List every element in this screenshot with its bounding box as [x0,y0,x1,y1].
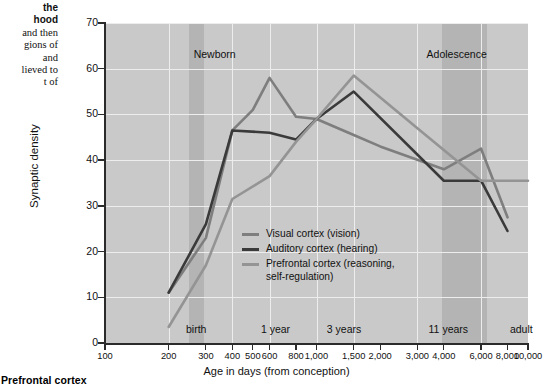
stage-label-11-years: 11 years [429,323,469,335]
x-tick-label: 2,000 [369,351,392,361]
y-tick-label: 50 [72,107,98,119]
legend-swatch [242,263,259,266]
y-tick-label: 20 [72,245,98,257]
stage-label-1-year: 1 year [261,323,290,335]
y-tick [98,22,105,23]
y-tick [98,159,105,160]
legend-label: Prefrontal cortex (reasoning, self-regul… [266,258,395,283]
x-tick [168,344,169,350]
x-tick [295,344,296,350]
stage-label-birth: birth [186,323,206,335]
x-tick-label: 800 [288,351,304,361]
y-axis-labels: 010203040506070 [64,0,98,391]
x-tick-label: 500 [245,351,261,361]
x-tick-label: 10,000 [514,351,542,361]
legend-item: Prefrontal cortex (reasoning, self-regul… [242,258,395,283]
x-tick [507,344,508,350]
legend-item: Auditory cortex (hearing) [242,243,395,256]
x-tick [232,344,233,350]
x-tick [269,344,270,350]
y-tick-label: 0 [72,336,98,348]
plot-area [105,23,528,343]
x-tick-label: 400 [225,351,241,361]
x-tick [205,344,206,350]
y-tick-label: 30 [72,199,98,211]
x-tick [353,344,354,350]
x-tick [380,344,381,350]
x-tick-label: 1,500 [342,351,365,361]
x-tick [104,344,105,350]
stage-label-3-years: 3 years [327,323,361,335]
y-tick-label: 40 [72,153,98,165]
y-tick-label: 60 [72,62,98,74]
x-tick-label: 100 [97,351,113,361]
x-tick-label: 6,000 [469,351,492,361]
era-label-newborn: Newborn [194,48,236,60]
legend-item: Visual cortex (vision) [242,228,395,241]
y-tick [98,205,105,206]
chart-legend: Visual cortex (vision)Auditory cortex (h… [242,228,395,286]
y-tick [98,68,105,69]
x-tick-label: 300 [198,351,214,361]
x-tick-label: 4,000 [432,351,455,361]
x-tick [480,344,481,350]
y-tick [98,297,105,298]
legend-swatch [242,233,259,236]
legend-label: Auditory cortex (hearing) [266,243,378,256]
era-label-adolescence: Adolescence [427,48,487,60]
x-tick [443,344,444,350]
x-tick [527,344,528,350]
x-tick [316,344,317,350]
y-tick [98,251,105,252]
y-tick [98,114,105,115]
stage-label-adult: adult [510,323,533,335]
series-lines [105,23,528,343]
synaptic-density-chart: 010203040506070 Synaptic density 1002003… [0,0,553,391]
x-tick-label: 1,000 [305,351,328,361]
y-axis-title: Synaptic density [28,96,40,236]
x-tick-label: 3,000 [406,351,429,361]
x-tick [417,344,418,350]
x-tick [252,344,253,350]
legend-swatch [242,248,259,251]
x-tick-label: 200 [161,351,177,361]
y-tick-label: 10 [72,290,98,302]
y-tick-label: 70 [72,16,98,28]
bottom-caption: Prefrontal cortex [1,374,87,386]
legend-label: Visual cortex (vision) [266,228,360,241]
series-line-prefrontal [169,76,528,327]
x-tick-label: 600 [262,351,278,361]
